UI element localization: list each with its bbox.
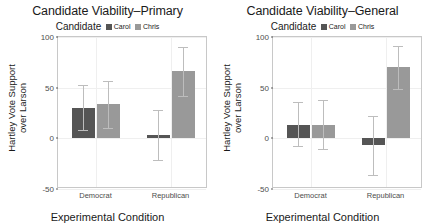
legend-label-carol: Carol: [114, 23, 131, 30]
y-axis-tick-mark: [271, 189, 273, 190]
error-bar-cap: [153, 160, 163, 161]
error-bar-line: [158, 110, 159, 160]
y-axis-title-line1: Hartley Vote Support: [221, 64, 232, 152]
panel-title-primary: Candidate Viability–Primary: [0, 4, 215, 18]
gridline-horizontal: [58, 37, 206, 38]
gridline-horizontal: [58, 138, 206, 139]
error-bar-line: [398, 46, 399, 89]
legend-item-chris: Chris: [350, 23, 374, 30]
error-bar-cap: [368, 175, 378, 176]
y-axis-tick-mark: [271, 138, 273, 139]
y-axis-tick-mark: [271, 37, 273, 38]
y-axis-title-primary: Hartley Vote Support over Larson: [2, 0, 32, 224]
error-bar-cap: [178, 47, 188, 48]
y-axis-title-line2: over Larson: [232, 83, 243, 133]
y-axis-title-line1: Hartley Vote Support: [6, 64, 17, 152]
x-axis-tick-label: Republican: [367, 187, 405, 200]
legend-title: Candidate: [271, 21, 317, 32]
legend-label-chris: Chris: [358, 23, 374, 30]
error-bar-cap: [153, 110, 163, 111]
legend-swatch-chris: [135, 24, 141, 30]
legend-label-carol: Carol: [329, 23, 346, 30]
y-axis-tick-mark: [56, 189, 58, 190]
gridline-horizontal: [273, 37, 421, 38]
legend-item-carol: Carol: [321, 23, 345, 30]
x-axis-title-primary: Experimental Condition: [0, 211, 215, 223]
error-bar-cap: [103, 81, 113, 82]
gridline-horizontal: [273, 138, 421, 139]
x-axis-title-general: Experimental Condition: [215, 211, 430, 223]
legend-swatch-chris: [350, 24, 356, 30]
chart-figure: Candidate Viability–Primary Candidate Ca…: [0, 0, 430, 224]
y-axis-tick-mark: [271, 87, 273, 88]
legend-title: Candidate: [56, 21, 102, 32]
error-bar-cap: [318, 100, 328, 101]
error-bar-cap: [393, 89, 403, 90]
y-axis-title-line2: over Larson: [17, 83, 28, 133]
error-bar-line: [373, 116, 374, 175]
error-bar-cap: [103, 128, 113, 129]
chart-panel-general: Candidate Viability–General Candidate Ca…: [215, 0, 430, 224]
legend-general: Candidate Carol Chris: [215, 21, 430, 32]
error-bar-line: [298, 102, 299, 147]
error-bar-cap: [78, 85, 88, 86]
error-bar-line: [108, 81, 109, 129]
y-axis-tick-mark: [56, 87, 58, 88]
plot-area-general: 100500-50DemocratRepublican: [272, 36, 422, 188]
gridline-vertical: [311, 37, 312, 187]
y-axis-tick-mark: [56, 138, 58, 139]
error-bar-cap: [78, 130, 88, 131]
y-axis-tick-mark: [56, 37, 58, 38]
legend-swatch-carol: [106, 24, 112, 30]
error-bar-cap: [293, 146, 303, 147]
chart-panel-primary: Candidate Viability–Primary Candidate Ca…: [0, 0, 215, 224]
x-axis-tick-label: Republican: [152, 187, 190, 200]
panel-title-general: Candidate Viability–General: [215, 4, 430, 18]
legend-item-carol: Carol: [106, 23, 130, 30]
x-axis-tick-label: Democrat: [294, 187, 327, 200]
legend-swatch-carol: [321, 24, 327, 30]
error-bar-line: [183, 47, 184, 96]
plot-area-primary: 100500-50DemocratRepublican: [57, 36, 207, 188]
y-axis-title-general: Hartley Vote Support over Larson: [217, 0, 247, 224]
error-bar-line: [323, 100, 324, 150]
legend-item-chris: Chris: [135, 23, 159, 30]
error-bar-cap: [393, 46, 403, 47]
error-bar-cap: [318, 149, 328, 150]
error-bar-cap: [368, 116, 378, 117]
error-bar-cap: [293, 102, 303, 103]
error-bar-cap: [178, 96, 188, 97]
legend-primary: Candidate Carol Chris: [0, 21, 215, 32]
legend-label-chris: Chris: [143, 23, 159, 30]
error-bar-line: [83, 85, 84, 131]
x-axis-tick-label: Democrat: [79, 187, 112, 200]
